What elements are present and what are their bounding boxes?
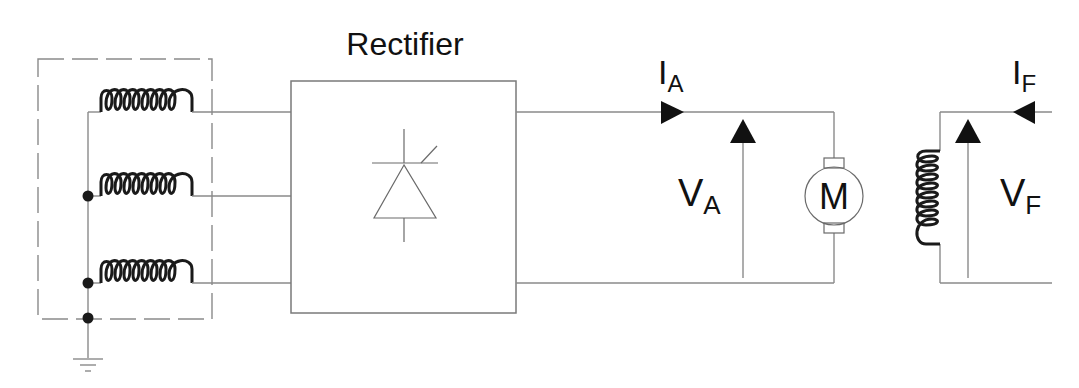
junction-dot bbox=[83, 313, 94, 324]
field-winding-icon bbox=[917, 151, 940, 244]
junction-dot bbox=[83, 278, 94, 289]
field-current-arrow-icon bbox=[1013, 101, 1035, 124]
ground-icon bbox=[73, 359, 103, 371]
junction-dot bbox=[83, 191, 94, 202]
field-voltage-arrow-icon bbox=[955, 119, 981, 143]
field-voltage-label: VF bbox=[1000, 172, 1041, 220]
rectifier-title: Rectifier bbox=[346, 26, 464, 62]
dc-motor-icon: M bbox=[805, 158, 863, 233]
armature-voltage-label: VA bbox=[678, 172, 721, 220]
armature-voltage-arrow-icon bbox=[730, 119, 756, 143]
source-winding-3-icon bbox=[88, 261, 291, 283]
circuit-diagram: Rectifier bbox=[0, 0, 1079, 388]
armature-current-arrow-icon bbox=[661, 101, 684, 124]
rectifier-block bbox=[291, 81, 516, 313]
source-winding-2-icon bbox=[88, 174, 291, 196]
thyristor-icon bbox=[372, 129, 438, 242]
motor-label: M bbox=[819, 176, 849, 217]
source-winding-1-icon bbox=[88, 90, 291, 112]
field-current-label: IF bbox=[1012, 53, 1036, 97]
armature-current-label: IA bbox=[658, 53, 683, 97]
